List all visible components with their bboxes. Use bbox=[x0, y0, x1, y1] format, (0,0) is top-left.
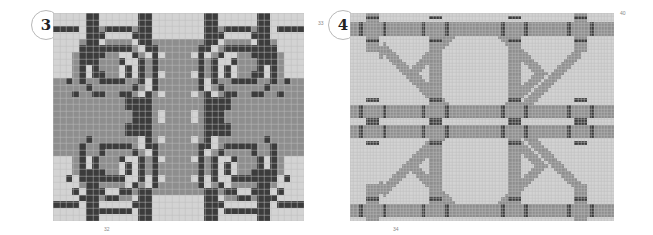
pattern-4-page-label-bottom: 34 bbox=[393, 226, 399, 232]
pattern-4-page-label-top-right: 40 bbox=[620, 10, 626, 16]
pattern-3-number: 3 bbox=[41, 16, 51, 34]
pattern-3-page-label-bottom: 32 bbox=[104, 226, 110, 232]
pattern-3-chart bbox=[53, 13, 304, 221]
pattern-3-page-label-right: 33 bbox=[318, 20, 324, 26]
pattern-4-number: 4 bbox=[338, 16, 348, 34]
pattern-4-chart bbox=[350, 13, 614, 221]
